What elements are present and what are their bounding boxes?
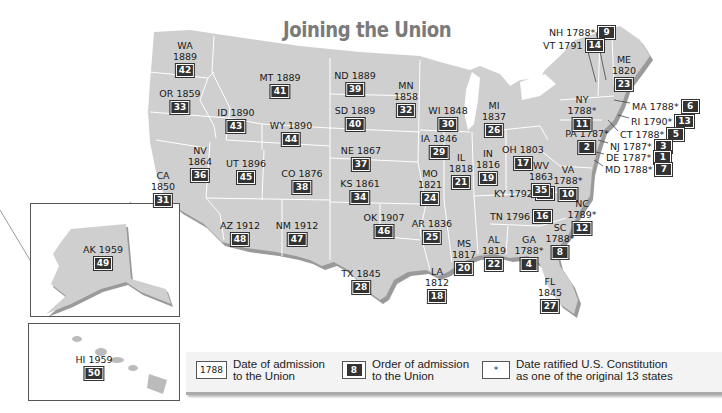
state-label-me: ME182023	[612, 54, 636, 91]
order-badge: 38	[293, 181, 312, 194]
state-label-sc: SC1788*8	[546, 222, 575, 259]
legend: 1788 Date of admission to the Union 8 Or…	[186, 352, 722, 395]
order-badge: 14	[586, 39, 605, 52]
order-badge: 41	[271, 85, 290, 98]
legend-item-asterisk: * Date ratified U.S. Constitution as one…	[482, 358, 673, 382]
order-badge: 31	[154, 194, 173, 207]
order-badge: 7	[655, 163, 672, 176]
legend-item-date: 1788 Date of admission to the Union	[196, 358, 325, 382]
order-badge: 9	[598, 26, 615, 39]
state-label-fl: FL184527	[538, 276, 562, 313]
order-badge: 48	[231, 233, 250, 246]
state-label-or: OR 185933	[159, 88, 200, 114]
legend-text-order: Order of admission to the Union	[372, 358, 469, 382]
order-badge: 46	[375, 225, 394, 238]
state-label-va: VA1788*10	[554, 164, 583, 201]
map-title: Joining the Union	[283, 18, 451, 42]
order-badge: 21	[452, 176, 471, 189]
state-label-wi: WI 184830	[428, 105, 467, 131]
state-label-hi: HI 195950	[75, 354, 112, 380]
state-label-al: AL181922	[482, 234, 506, 271]
state-label-az: AZ 191248	[220, 220, 260, 246]
order-badge: 39	[346, 83, 365, 96]
state-label-mo: MO182124	[418, 168, 442, 205]
state-callout-vt: VT 179114	[543, 39, 604, 52]
legend-sample-order: 8	[342, 361, 366, 379]
order-badge: 47	[288, 233, 307, 246]
order-badge: 35	[532, 184, 551, 197]
order-badge: 24	[421, 192, 440, 205]
order-badge: 11	[573, 118, 592, 131]
state-label-wv: WV186335	[529, 160, 553, 197]
state-label-wy: WY 189044	[270, 120, 312, 146]
order-badge: 29	[430, 146, 449, 159]
order-badge: 37	[352, 158, 371, 171]
order-badge: 22	[485, 258, 504, 271]
state-callout-ri: RI 1790*13	[631, 115, 694, 128]
order-badge: 45	[237, 171, 256, 184]
state-label-ak: AK 195949	[83, 244, 123, 270]
order-badge: 40	[346, 118, 365, 131]
order-badge: 33	[171, 101, 190, 114]
order-badge: 2	[579, 141, 596, 154]
order-badge: 34	[351, 191, 370, 204]
state-label-ne: NE 186737	[341, 145, 381, 171]
legend-text-asterisk: Date ratified U.S. Constitution as one o…	[516, 358, 673, 382]
state-callout-nh: NH 1788*9	[549, 26, 615, 39]
order-badge: 44	[282, 133, 301, 146]
state-label-mt: MT 188941	[259, 72, 300, 98]
state-label-mi: MI183726	[482, 100, 506, 137]
state-label-ga: GA1788*4	[515, 234, 544, 271]
legend-item-order: 8 Order of admission to the Union	[342, 358, 469, 382]
order-badge: 23	[615, 78, 634, 91]
state-label-il: IL181821	[449, 152, 473, 189]
order-badge: 19	[479, 172, 498, 185]
order-badge: 26	[485, 124, 504, 137]
order-badge: 32	[397, 104, 416, 117]
order-badge: 20	[455, 262, 474, 275]
order-badge: 18	[428, 290, 447, 303]
state-label-in: IN181619	[476, 148, 500, 185]
order-badge: 4	[521, 258, 538, 271]
order-badge: 49	[94, 257, 113, 270]
state-label-nm: NM 191247	[276, 220, 319, 246]
order-badge: 50	[85, 367, 104, 380]
state-label-co: CO 187638	[281, 168, 322, 194]
state-label-ar: AR 183625	[412, 218, 452, 244]
state-label-wa: WA188942	[173, 40, 197, 77]
state-label-sd: SD 188940	[335, 105, 376, 131]
state-label-id: ID 189043	[217, 107, 254, 133]
state-label-tn: TN 179616	[490, 210, 552, 223]
order-badge: 42	[176, 64, 195, 77]
order-badge: 43	[227, 120, 246, 133]
order-badge: 36	[191, 169, 210, 182]
state-label-ut: UT 189645	[226, 158, 266, 184]
order-badge: 27	[541, 300, 560, 313]
state-label-nd: ND 188939	[334, 70, 376, 96]
state-callout-ma: MA 1788*6	[632, 100, 699, 113]
state-callout-md: MD 1788*7	[605, 163, 672, 176]
order-badge: 30	[439, 118, 458, 131]
state-label-mn: MN185832	[394, 80, 418, 117]
state-label-ms: MS181720	[452, 238, 476, 275]
state-label-tx: TX 184528	[341, 268, 381, 294]
order-badge: 13	[675, 115, 694, 128]
legend-sample-asterisk: *	[482, 361, 510, 379]
order-badge: 6	[682, 100, 699, 113]
order-badge: 25	[423, 231, 442, 244]
state-label-nv: NV186436	[188, 145, 212, 182]
order-badge: 28	[352, 281, 371, 294]
legend-sample-date: 1788	[196, 361, 227, 379]
state-label-pa: PA 1787*2	[565, 128, 609, 154]
order-badge: 8	[552, 246, 569, 259]
order-badge: 12	[573, 222, 592, 235]
legend-text-date: Date of admission to the Union	[233, 358, 325, 382]
state-label-ny: NY1788*11	[568, 94, 597, 131]
state-label-la: LA181218	[425, 266, 449, 303]
state-label-ca: CA185031	[151, 170, 175, 207]
state-label-ks: KS 186134	[340, 178, 379, 204]
state-label-ok: OK 190746	[364, 212, 405, 238]
